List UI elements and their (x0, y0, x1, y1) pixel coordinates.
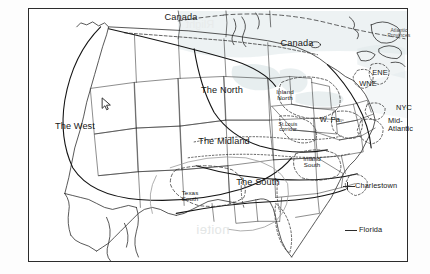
secondary-region-lines (150, 157, 288, 231)
leader-florida (345, 230, 357, 231)
dialect-map-figure: Canada Canada Atlantic Provinces The Nor… (0, 0, 430, 274)
tick-charlestown (347, 182, 348, 190)
map-frame (28, 8, 408, 262)
figure-caption (24, 270, 426, 274)
map-vector-artwork (29, 9, 407, 261)
leader-charlestown (343, 186, 355, 187)
mouse-pointer-icon (101, 97, 112, 111)
map-drawing-canvas (29, 9, 407, 261)
water-shading (178, 11, 407, 118)
